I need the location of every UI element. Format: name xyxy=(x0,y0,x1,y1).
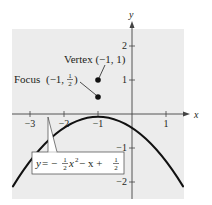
focus-point xyxy=(95,94,101,100)
focus-label-close: ) xyxy=(74,73,78,86)
focus-frac-den: 2 xyxy=(68,80,72,88)
x-tick-label: −3 xyxy=(25,118,36,129)
focus-frac-num: 1 xyxy=(68,72,72,80)
x-axis-label: x xyxy=(193,109,199,120)
y-axis-label: y xyxy=(128,9,134,20)
equation-frac-num: 1 xyxy=(63,156,67,164)
focus-label-word: Focus xyxy=(14,73,40,85)
equation-y: y xyxy=(35,157,41,169)
y-tick-label: −1 xyxy=(116,142,127,153)
y-axis-arrow-icon xyxy=(130,21,135,28)
focus-label-coord: (−1, xyxy=(46,73,64,86)
equation-const-num: 1 xyxy=(114,156,118,164)
equation-const-den: 2 xyxy=(114,164,118,172)
vertex-label: Vertex (−1, 1) xyxy=(64,53,126,66)
y-tick-label: 2 xyxy=(122,40,127,51)
equation-x: x xyxy=(68,157,74,169)
parabola-chart: x −3 −2 −1 1 y 2 1 −1 −2 Vertex (−1, 1) … xyxy=(0,0,212,205)
x-tick-label: 1 xyxy=(164,118,169,129)
y-tick-label: −2 xyxy=(116,176,127,187)
equation-rest: − x + xyxy=(79,157,102,169)
x-tick-label: −1 xyxy=(93,118,104,129)
equation-eq: = − xyxy=(42,157,57,169)
x-axis-arrow-icon xyxy=(183,112,190,117)
equation-frac-den: 2 xyxy=(63,164,67,172)
y-tick-label: 1 xyxy=(122,74,127,85)
vertex-point xyxy=(95,77,101,83)
